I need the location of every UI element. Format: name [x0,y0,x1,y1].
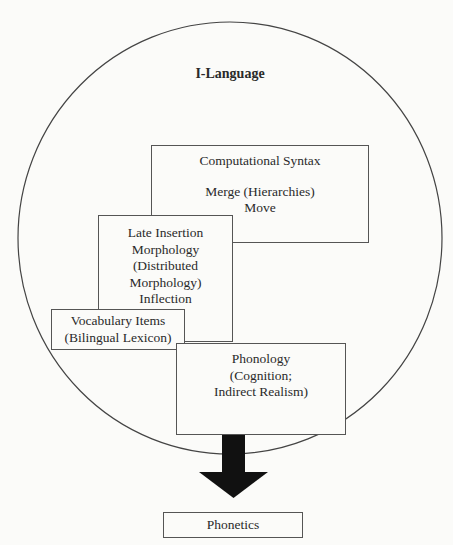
vocab-line: (Bilingual Lexicon) [52,330,184,347]
morph-line: Late Insertion [99,225,232,242]
i-language-label: I-Language [150,66,310,82]
phon-line: Indirect Realism) [177,384,345,401]
phon-line: Phonology [177,351,345,368]
syntax-title: Computational Syntax [152,153,368,170]
phonetics-box: Phonetics [163,512,303,538]
phonology-box: Phonology (Cognition; Indirect Realism) [176,343,346,435]
down-arrow-icon [199,434,268,498]
morph-line: Morphology [99,242,232,259]
morph-line: (Distributed [99,258,232,275]
vocabulary-items-box: Vocabulary Items (Bilingual Lexicon) [51,309,185,350]
phonetics-label: Phonetics [164,517,302,534]
syntax-merge: Merge (Hierarchies) [152,184,368,201]
morph-line: Inflection [99,291,232,308]
phon-line: (Cognition; [177,368,345,385]
vocab-line: Vocabulary Items [52,313,184,330]
morph-line: Morphology) [99,275,232,292]
